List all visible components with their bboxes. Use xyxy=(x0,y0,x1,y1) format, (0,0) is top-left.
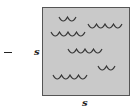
wave-group xyxy=(53,75,87,79)
wave-marks xyxy=(0,0,135,112)
wave-group xyxy=(88,24,122,28)
wave-group xyxy=(51,32,85,36)
square-diagram: s s xyxy=(0,0,135,112)
wave-group xyxy=(98,66,115,70)
bottom-length-label: s xyxy=(82,98,88,108)
wave-group xyxy=(59,17,76,21)
wave-group xyxy=(68,49,102,53)
